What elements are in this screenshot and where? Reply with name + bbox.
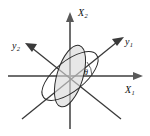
y2-label-base: y — [12, 40, 16, 51]
y1-label-subscript: 1 — [130, 41, 133, 48]
y1-label-base: y — [125, 36, 129, 47]
x2-label-subscript: 2 — [84, 12, 87, 19]
y1-axis-label: y1 — [125, 37, 133, 47]
x1-label-subscript: 1 — [131, 89, 134, 96]
x2-arrowhead-icon — [66, 12, 74, 22]
theta-angle-label: θ — [84, 69, 88, 77]
x1-arrowhead-icon — [133, 72, 143, 80]
y2-axis-label: y2 — [12, 41, 20, 51]
coordinate-rotation-figure: X2 X1 y1 y2 θ — [0, 0, 150, 136]
x2-axis-label: X2 — [78, 8, 87, 18]
figure-canvas — [0, 0, 150, 136]
y2-label-subscript: 2 — [17, 45, 20, 52]
x1-axis-label: X1 — [125, 85, 134, 95]
